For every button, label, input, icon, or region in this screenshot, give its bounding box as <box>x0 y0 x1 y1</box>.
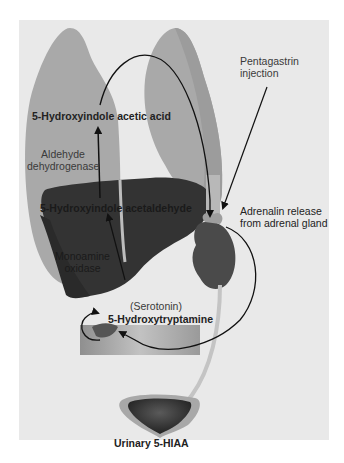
label-mao-line1: Monoamine <box>50 250 115 262</box>
label-urinary-hiaa: Urinary 5-HIAA <box>114 437 189 449</box>
label-serotonin: (Serotonin) <box>130 300 182 312</box>
label-acetaldehyde: 5-Hydroxyindole acetaldehyde <box>40 202 192 214</box>
label-hiaa: 5-Hydroxyindole acetic acid <box>32 110 171 122</box>
label-mao-line2: oxidase <box>50 262 115 274</box>
label-aldehyde-dehydrogenase: Aldehyde dehydrogenase <box>27 148 99 172</box>
kidney <box>193 222 236 289</box>
label-monoamine-oxidase: Monoamine oxidase <box>50 250 115 274</box>
label-aldehyde-line2: dehydrogenase <box>27 160 99 172</box>
label-pentagastrin-line1: Pentagastrin <box>240 55 299 67</box>
bladder <box>128 399 191 434</box>
label-hydroxytryptamine: 5-Hydroxytryptamine <box>108 313 213 325</box>
label-adrenalin-line2: from adrenal gland <box>240 217 328 229</box>
label-adrenalin-line1: Adrenalin release <box>240 205 328 217</box>
label-adrenalin: Adrenalin release from adrenal gland <box>240 205 328 229</box>
label-pentagastrin-line2: injection <box>240 67 299 79</box>
label-aldehyde-line1: Aldehyde <box>27 148 99 160</box>
label-pentagastrin: Pentagastrin injection <box>240 55 299 79</box>
